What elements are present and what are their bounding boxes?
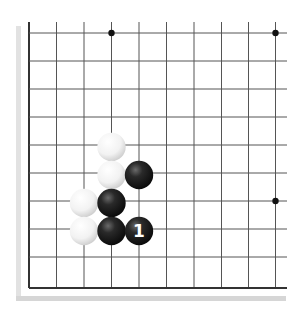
white-stone: [70, 217, 98, 245]
star-point-icon: [108, 30, 114, 36]
black-stone: [97, 217, 125, 245]
move-number-label: 1: [133, 221, 145, 241]
left-shadow-strip: [16, 26, 21, 300]
black-stone-icon: [97, 217, 125, 245]
white-stone: [97, 161, 125, 189]
star-point-icon: [272, 198, 278, 204]
white-stone-icon: [97, 133, 125, 161]
white-stone-icon: [70, 189, 98, 217]
grid-lines: [29, 22, 287, 288]
black-stone: 1: [125, 217, 153, 245]
stones: 1: [70, 133, 153, 245]
black-stone: [125, 161, 153, 189]
star-point-icon: [272, 30, 278, 36]
black-stone-icon: [97, 189, 125, 217]
white-stone-icon: [97, 161, 125, 189]
go-board: 1: [0, 0, 303, 311]
white-stone-icon: [70, 217, 98, 245]
bottom-shadow-strip: [16, 296, 286, 301]
white-stone: [70, 189, 98, 217]
black-stone: [97, 189, 125, 217]
black-stone-icon: [125, 161, 153, 189]
white-stone: [97, 133, 125, 161]
